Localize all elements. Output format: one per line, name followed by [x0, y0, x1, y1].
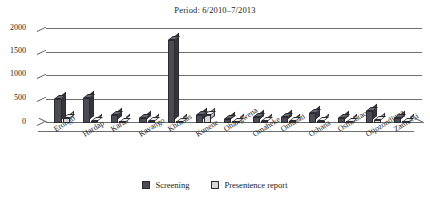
bar-group — [83, 29, 98, 123]
bar-presentence-report[interactable] — [261, 121, 268, 123]
y-tick-label-2000: 2000 — [0, 24, 26, 32]
chart-legend: Screening Presentence report — [0, 180, 430, 190]
bar-group — [111, 29, 126, 123]
bar-face — [366, 111, 373, 123]
legend-label-screening: Screening — [155, 180, 189, 190]
bar-screening[interactable] — [338, 118, 345, 123]
bar-face — [402, 121, 409, 123]
bar-face — [374, 120, 381, 123]
bar-group — [54, 29, 69, 123]
bar-face — [91, 121, 98, 123]
bar-screening[interactable] — [224, 119, 231, 123]
bar-face — [289, 121, 296, 123]
bar-presentence-report[interactable] — [91, 121, 98, 123]
x-axis-labels: ErongoHardapKarasKavangoKhomasKuneneOhan… — [38, 126, 428, 182]
bar-screening[interactable] — [168, 40, 175, 123]
plot-area: 2000 1500 1000 500 0 — [38, 28, 422, 122]
bar-presentence-report[interactable] — [317, 121, 324, 123]
bar-screening[interactable] — [83, 98, 90, 123]
bar-presentence-report[interactable] — [119, 122, 126, 123]
bar-face — [224, 119, 231, 123]
y-tick-label-1500: 1500 — [0, 47, 26, 55]
bar-group — [224, 29, 239, 123]
bar-face — [253, 117, 260, 123]
bar-screening[interactable] — [111, 115, 118, 123]
bar-face — [309, 113, 316, 123]
legend-item-presentence-report[interactable]: Presentence report — [211, 180, 287, 190]
bar-presentence-report[interactable] — [63, 118, 70, 123]
bar-face — [119, 121, 126, 123]
bar-group — [196, 29, 211, 123]
bar-face — [394, 118, 401, 123]
bar-face — [281, 117, 288, 123]
bar-face — [346, 121, 353, 123]
chart-title: Period: 6/2010–7/2013 — [0, 5, 430, 15]
bar-group — [281, 29, 296, 123]
bar-face — [232, 121, 239, 123]
bar-presentence-report[interactable] — [346, 122, 353, 123]
bar-group — [366, 29, 381, 123]
bar-face — [261, 121, 268, 123]
bar-screening[interactable] — [281, 117, 288, 123]
bar-face — [176, 121, 183, 123]
bar-face — [196, 115, 203, 123]
bar-presentence-report[interactable] — [148, 121, 155, 123]
bar-side — [175, 33, 179, 119]
y-tick-label-0: 0 — [0, 118, 26, 126]
bar-face — [83, 98, 90, 123]
bar-screening[interactable] — [394, 118, 401, 123]
y-tick-label-500: 500 — [0, 94, 26, 102]
legend-swatch-presentence-report — [211, 181, 219, 189]
bar-screening[interactable] — [253, 117, 260, 123]
bar-face — [139, 118, 146, 123]
y-tick-label-1000: 1000 — [0, 70, 26, 78]
bar-screening[interactable] — [196, 115, 203, 123]
legend-item-screening[interactable]: Screening — [142, 180, 189, 190]
bar-face — [317, 121, 324, 123]
bar-screening[interactable] — [366, 111, 373, 123]
bar-face — [338, 118, 345, 123]
bar-presentence-report[interactable] — [289, 121, 296, 123]
bar-face — [168, 40, 175, 123]
bar-presentence-report[interactable] — [232, 122, 239, 123]
bar-group — [139, 29, 154, 123]
bar-screening[interactable] — [309, 113, 316, 123]
bar-group — [309, 29, 324, 123]
bar-screening[interactable] — [54, 99, 61, 123]
chart-figure: Period: 6/2010–7/2013 2000 1500 1000 500… — [0, 0, 430, 206]
bar-face — [54, 99, 61, 123]
bar-presentence-report[interactable] — [176, 122, 183, 123]
bar-presentence-report[interactable] — [374, 120, 381, 123]
bar-face — [111, 115, 118, 123]
bar-presentence-report[interactable] — [402, 122, 409, 123]
bar-group — [338, 29, 353, 123]
bar-group — [168, 29, 183, 123]
legend-label-presentence-report: Presentence report — [224, 180, 287, 190]
bar-face — [148, 121, 155, 123]
bar-face — [63, 118, 70, 123]
legend-swatch-screening — [142, 181, 150, 189]
bar-screening[interactable] — [139, 118, 146, 123]
